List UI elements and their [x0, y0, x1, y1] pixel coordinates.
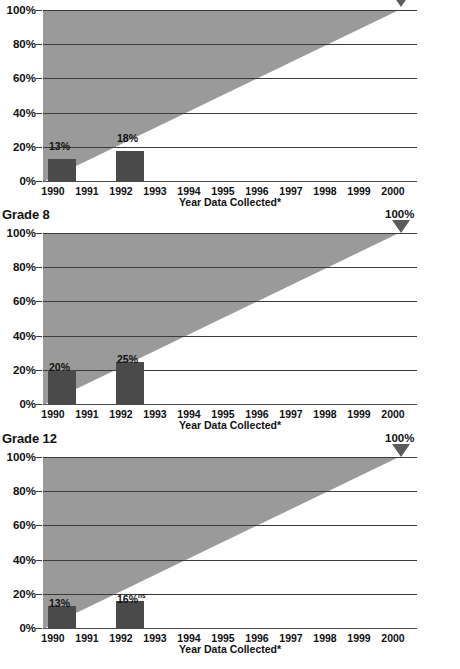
bar-label-1990-1: 13%: [49, 141, 70, 152]
xtick-2000-3: 2000: [376, 633, 410, 644]
gridline-60-3: [43, 525, 417, 526]
chart-panel-2: Grade 8 100% 100: [0, 206, 460, 432]
xtick-1996-3: 1996: [240, 633, 274, 644]
gridline-60-1: [43, 78, 417, 79]
ytick-80-3: 80%: [13, 486, 36, 498]
ytick-0-2: 0%: [19, 399, 36, 411]
plot-area-1: [43, 10, 417, 182]
figure-root: 100% 80% 60% 40% 20% 0% 13% 18% 1990 199…: [0, 0, 460, 669]
xtick-1997-2: 1997: [274, 409, 308, 420]
xtick-1993-1: 1993: [138, 186, 172, 197]
target-wedge-shape-1: [43, 10, 417, 182]
ytick-40-3: 40%: [13, 555, 36, 567]
xtick-1998-1: 1998: [308, 186, 342, 197]
chart-panel-1: 100% 80% 60% 40% 20% 0% 13% 18% 1990 199…: [0, 0, 460, 208]
ytick-100-1: 100%: [7, 5, 36, 17]
gridline-80-3: [43, 491, 417, 492]
plot-area-3: [43, 457, 417, 629]
xtick-1997-1: 1997: [274, 186, 308, 197]
tick-mark-100-2: [36, 233, 42, 234]
ytick-40-2: 40%: [13, 331, 36, 343]
panel-title-grade-8: Grade 8: [2, 207, 50, 222]
tick-mark-0-2: [36, 404, 42, 405]
gridline-0-3: [43, 628, 417, 629]
ytick-20-1: 20%: [13, 142, 36, 154]
bar-1992-2: [116, 362, 144, 405]
gridline-60-2: [43, 301, 417, 302]
goal-label-3: 100%: [385, 432, 414, 444]
bar-label-text-1990-3: 13%: [49, 597, 70, 609]
tick-mark-80-3: [36, 491, 42, 492]
ytick-60-2: 60%: [13, 296, 36, 308]
xtick-1999-3: 1999: [342, 633, 376, 644]
tick-mark-80-1: [36, 44, 42, 45]
target-wedge-1: [43, 10, 417, 182]
gridline-40-2: [43, 336, 417, 337]
bar-label-text-1992-1: 18%: [117, 132, 138, 144]
gridline-0-2: [43, 404, 417, 405]
xtick-1992-2: 1992: [104, 409, 138, 420]
tick-mark-40-3: [36, 560, 42, 561]
xtick-1990-3: 1990: [36, 633, 70, 644]
panel-title-grade-12: Grade 12: [2, 431, 57, 446]
ytick-20-3: 20%: [13, 589, 36, 601]
ytick-80-1: 80%: [13, 39, 36, 51]
bar-label-text-1990-2: 20%: [49, 361, 70, 373]
gridline-40-3: [43, 560, 417, 561]
gridline-100-3: [43, 457, 417, 458]
xtick-1993-2: 1993: [138, 409, 172, 420]
target-wedge-shape-3: [43, 457, 417, 629]
xtick-1991-2: 1991: [70, 409, 104, 420]
xtick-1995-2: 1995: [206, 409, 240, 420]
bar-label-significance-1992-3: ns: [138, 592, 146, 599]
bar-label-text-1990-1: 13%: [49, 140, 70, 152]
target-wedge-3: [43, 457, 417, 629]
tick-mark-20-3: [36, 594, 42, 595]
target-wedge-shape-2: [43, 233, 417, 405]
tick-mark-100-3: [36, 457, 42, 458]
gridline-100-2: [43, 233, 417, 234]
bar-label-text-1992-3: 16%: [117, 593, 138, 605]
bar-1990-1: [48, 159, 76, 182]
plot-area-2: [43, 233, 417, 405]
bar-label-1990-3: 13%: [49, 598, 70, 609]
gridline-20-1: [43, 147, 417, 148]
tick-mark-20-2: [36, 370, 42, 371]
xtick-1994-2: 1994: [172, 409, 206, 420]
tick-mark-20-1: [36, 147, 42, 148]
target-wedge-2: [43, 233, 417, 405]
xtick-1993-3: 1993: [138, 633, 172, 644]
ytick-20-2: 20%: [13, 365, 36, 377]
goal-label-2: 100%: [385, 208, 414, 220]
gridline-0-1: [43, 181, 417, 182]
ytick-60-1: 60%: [13, 73, 36, 85]
gridline-20-2: [43, 370, 417, 371]
xtick-1992-3: 1992: [104, 633, 138, 644]
tick-mark-0-1: [36, 181, 42, 182]
bar-1990-2: [48, 370, 76, 405]
gridline-100-1: [43, 10, 417, 11]
tick-mark-60-2: [36, 301, 42, 302]
goal-marker-icon-3: [392, 444, 410, 457]
bar-label-1992-2: 25%: [117, 354, 138, 365]
xaxis-title-3: Year Data Collected*: [0, 643, 460, 655]
ytick-0-3: 0%: [19, 623, 36, 635]
xtick-1991-1: 1991: [70, 186, 104, 197]
tick-mark-40-2: [36, 336, 42, 337]
xtick-1997-3: 1997: [274, 633, 308, 644]
xtick-1999-2: 1999: [342, 409, 376, 420]
tick-mark-100-1: [36, 10, 42, 11]
xtick-1992-1: 1992: [104, 186, 138, 197]
ytick-80-2: 80%: [13, 262, 36, 274]
tick-mark-0-3: [36, 628, 42, 629]
xtick-2000-1: 2000: [376, 186, 410, 197]
goal-marker-icon-1: [392, 0, 410, 7]
ytick-60-3: 60%: [13, 520, 36, 532]
xtick-1991-3: 1991: [70, 633, 104, 644]
xtick-1998-3: 1998: [308, 633, 342, 644]
gridline-20-3: [43, 594, 417, 595]
gridline-40-1: [43, 113, 417, 114]
gridline-80-1: [43, 44, 417, 45]
gridline-80-2: [43, 267, 417, 268]
bar-label-text-1992-2: 25%: [117, 353, 138, 365]
